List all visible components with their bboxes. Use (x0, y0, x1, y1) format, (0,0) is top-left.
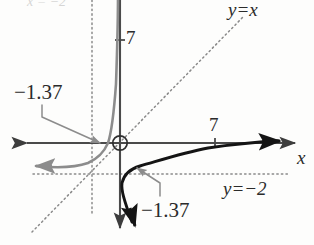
leader-line-bottom-intercept (137, 168, 160, 196)
label-bottom-intercept-value: −1.37 (141, 198, 190, 223)
label-x-axis: x (297, 147, 305, 169)
x-axis-tick-label-7: 7 (209, 114, 219, 136)
cutoff-top-label: x = −2 (27, 0, 66, 10)
graph-figure: x = −2 7 7 −1.37 −1.37 y=x y=−2 x (0, 0, 314, 245)
y-axis-tick-label-7: 7 (126, 27, 136, 49)
label-left-intercept-value: −1.37 (14, 80, 63, 105)
label-y-equals-negative-2: y=−2 (223, 178, 267, 200)
label-y-equals-x: y=x (228, 0, 258, 21)
black-curve-right-arrow (262, 141, 280, 142)
